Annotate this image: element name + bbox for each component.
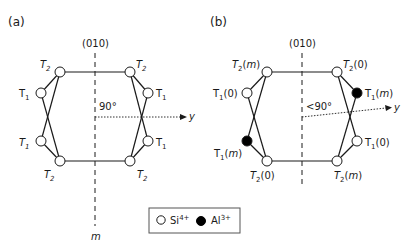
si-site-circle <box>36 136 46 146</box>
si-legend-icon <box>157 216 165 224</box>
site-label-t2: T2 <box>40 59 51 73</box>
panel-a-plane-label: (010) <box>82 38 109 49</box>
site-label-t2: T2 <box>44 169 55 183</box>
si-site-circle <box>36 88 46 98</box>
site-label-t1-m: T1(m) <box>364 88 393 102</box>
site-label-t2: T2 <box>137 169 148 183</box>
site-label-t2-0: T2(0) <box>250 170 275 184</box>
site-label-t2-0: T2(0) <box>343 59 368 73</box>
panel-a-label: (a) <box>8 15 25 29</box>
site-label-t1-m: T1(m) <box>213 148 242 162</box>
si-site-circle <box>332 156 342 166</box>
si-site-circle <box>55 156 65 166</box>
si-site-circle <box>352 136 362 146</box>
si-site-circle <box>332 67 342 77</box>
site-label-t1: T1 <box>19 137 30 151</box>
site-label-t2-m: T2(m) <box>232 59 260 73</box>
si-site-circle <box>262 156 272 166</box>
panel-b-axis-label: y <box>393 102 401 113</box>
site-label-t2: T2 <box>136 59 147 73</box>
panel-b-angle-label: <90° <box>306 101 332 112</box>
si-site-circle <box>125 67 135 77</box>
panel-a-mirror-label: m <box>91 231 101 242</box>
al-site-circle <box>352 88 362 98</box>
si-site-circle <box>242 88 252 98</box>
si-site-circle <box>143 88 153 98</box>
si-site-circle <box>143 136 153 146</box>
panel-a-axis-label: y <box>188 111 196 122</box>
si-site-circle <box>262 67 272 77</box>
si-site-circle <box>55 67 65 77</box>
al-site-circle <box>242 136 252 146</box>
site-label-t1-0: T1(0) <box>364 137 390 151</box>
site-label-t1: T1 <box>18 88 30 102</box>
feldspar-tetrahedral-diagram: (a) (010) m y 90° T2 T2 T1 <box>0 0 410 247</box>
panel-b: (b) (010) y <90° T2(m) T2(0) T1(0) <box>210 15 401 188</box>
panel-b-label: (b) <box>210 15 227 29</box>
site-label-t1: T1 <box>155 88 167 102</box>
panel-a-angle-label: 90° <box>99 101 117 112</box>
site-label-t1-0: T1(0) <box>212 88 238 102</box>
panel-b-plane-label: (010) <box>289 38 316 49</box>
si-site-circle <box>125 156 135 166</box>
site-label-t1: T1 <box>155 137 167 151</box>
panel-a-arrowhead-icon <box>180 114 187 120</box>
legend: Si4+ Al3+ <box>149 208 240 233</box>
panel-b-arrowhead-icon <box>385 105 392 111</box>
site-label-t2-m: T2(m) <box>334 170 362 184</box>
al-legend-icon <box>197 217 206 226</box>
